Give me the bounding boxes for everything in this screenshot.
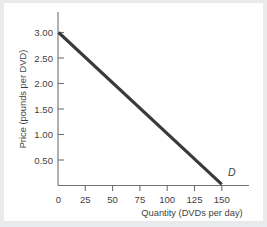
y-axis-title: Price (pounds per DVD) bbox=[18, 50, 28, 149]
y-tick-label: 2.00 bbox=[34, 78, 53, 89]
x-tick-label: 100 bbox=[159, 194, 175, 205]
chart-canvas: 3.00 2.50 2.00 1.50 1.00 0.50 0 25 50 75… bbox=[4, 3, 263, 221]
x-axis-title: Quantity (DVDs per day) bbox=[141, 208, 242, 218]
demand-curve-label: D bbox=[228, 166, 236, 178]
x-tick-label: 25 bbox=[80, 194, 91, 205]
x-axis-ticks bbox=[85, 186, 222, 192]
x-tick-label: 125 bbox=[186, 194, 202, 205]
x-tick-label: 75 bbox=[135, 194, 146, 205]
y-tick-label: 2.50 bbox=[34, 53, 53, 64]
demand-curve-chart: 3.00 2.50 2.00 1.50 1.00 0.50 0 25 50 75… bbox=[4, 3, 263, 221]
demand-line bbox=[59, 33, 222, 185]
y-tick-label: 1.50 bbox=[34, 104, 53, 115]
x-tick-labels: 25 50 75 100 125 150 bbox=[80, 194, 230, 205]
x-tick-label: 50 bbox=[107, 194, 118, 205]
origin-label: 0 bbox=[56, 194, 61, 205]
x-tick-label: 150 bbox=[214, 194, 230, 205]
y-axis-ticks bbox=[58, 33, 64, 161]
chart-plate: 3.00 2.50 2.00 1.50 1.00 0.50 0 25 50 75… bbox=[4, 3, 263, 221]
figure-frame: 3.00 2.50 2.00 1.50 1.00 0.50 0 25 50 75… bbox=[0, 0, 267, 227]
y-tick-label: 3.00 bbox=[34, 27, 53, 38]
y-tick-label: 0.50 bbox=[34, 155, 53, 166]
y-tick-label: 1.00 bbox=[34, 129, 53, 140]
y-tick-labels: 3.00 2.50 2.00 1.50 1.00 0.50 bbox=[34, 27, 53, 166]
